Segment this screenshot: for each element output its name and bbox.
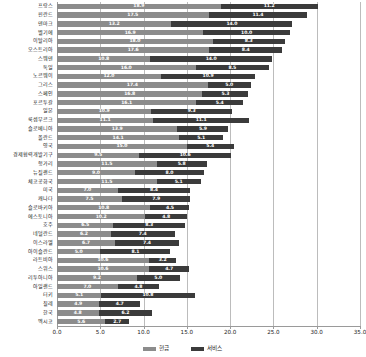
- bar-value-cash: 17.6: [128, 48, 139, 53]
- category-label: 체코공화국: [28, 179, 53, 184]
- legend-item[interactable]: 서비스: [191, 346, 222, 352]
- category-label: 프랑스: [38, 4, 53, 9]
- category-label: 룩셈부르크: [28, 118, 53, 123]
- bar-row: 11.55.1: [57, 179, 360, 184]
- category-label: 뉴질랜드: [33, 170, 53, 175]
- bar-row: 6.77.4: [57, 240, 360, 245]
- bar-value-cash: 10.8: [98, 205, 109, 210]
- bar-value-cash: 4.9: [74, 302, 82, 307]
- bar-value-cash: 4.8: [74, 311, 82, 316]
- category-label: 아일랜드: [33, 284, 53, 289]
- bar-value-cash: 11.1: [100, 118, 111, 123]
- bar-value-service: 2.7: [113, 319, 121, 324]
- legend-label: 현금: [159, 346, 169, 352]
- bar-value-cash: 14.1: [113, 135, 124, 140]
- bar-value-cash: 7.5: [86, 197, 94, 202]
- bar-value-service: 8.5: [228, 65, 236, 70]
- bar-value-cash: 9.5: [94, 153, 102, 158]
- bar-value-cash: 18.9: [133, 4, 144, 9]
- bar-value-cash: 11.5: [101, 162, 112, 167]
- category-label: 노르웨이: [33, 74, 53, 79]
- bar-value-service: 5.0: [154, 276, 162, 281]
- bar-value-cash: 10.9: [99, 109, 110, 114]
- bar-row: 6.27.4: [57, 231, 360, 236]
- x-axis-tick-label: 20.0: [224, 330, 236, 336]
- x-axis-tick-label: 25.0: [267, 330, 279, 336]
- bar-value-cash: 13.9: [112, 127, 123, 132]
- x-axis-tick-label: 10.0: [137, 330, 149, 336]
- bar-row: 16.85.3: [57, 91, 360, 96]
- category-label: 오스트리아: [28, 48, 53, 53]
- category-label: 스페인: [38, 91, 53, 96]
- category-label: 벨기에: [38, 30, 53, 35]
- bar-value-service: 10.6: [180, 153, 191, 158]
- bar-row: 10.99.3: [57, 109, 360, 114]
- category-label: 독일: [43, 65, 53, 70]
- category-label: 경제협력개발기구: [13, 153, 53, 158]
- bar-value-service: 9.3: [188, 109, 196, 114]
- bar-row: 10.24.8: [57, 214, 360, 219]
- bar-row: 15.05.4: [57, 144, 360, 149]
- bar-value-service: 8.3: [145, 223, 153, 228]
- gridline: [360, 2, 361, 326]
- category-label: 에스토니아: [28, 214, 53, 219]
- bar-row: 18.08.3: [57, 39, 360, 44]
- bar-value-service: 8.3: [245, 39, 253, 44]
- category-label: 미국: [43, 188, 53, 193]
- bar-value-service: 10.9: [203, 74, 214, 79]
- bar-value-service: 8.4: [242, 48, 250, 53]
- bar-rows: 18.911.217.511.413.214.016.910.018.08.31…: [57, 2, 360, 326]
- category-label: 호주: [43, 223, 53, 228]
- category-label: 이탈리아: [33, 39, 53, 44]
- category-label: 칠레: [43, 302, 53, 307]
- category-label: 멕시코: [38, 319, 53, 324]
- bar-value-service: 8.0: [166, 170, 174, 175]
- bar-value-cash: 6.2: [80, 232, 88, 237]
- bar-value-cash: 10.6: [97, 267, 108, 272]
- category-label: 그리스: [38, 83, 53, 88]
- bar-value-cash: 5.6: [77, 319, 85, 324]
- category-label: 터키: [43, 293, 53, 298]
- bar-value-service: 14.0: [206, 57, 217, 62]
- bar-row: 16.910.0: [57, 30, 360, 35]
- bar-row: 4.94.7: [57, 301, 360, 306]
- legend-swatch-icon: [143, 347, 156, 351]
- bar-row: 6.58.3: [57, 223, 360, 228]
- bar-row: 13.214.0: [57, 21, 360, 26]
- bar-row: 7.57.9: [57, 196, 360, 201]
- bar-row: 10.63.2: [57, 258, 360, 263]
- category-label: 영국: [43, 144, 53, 149]
- bar-value-service: 10.8: [142, 293, 153, 298]
- legend-label: 서비스: [207, 346, 222, 352]
- bar-value-cash: 13.2: [109, 22, 120, 27]
- category-label: 라트비아: [33, 258, 53, 263]
- category-label: 리투아니아: [28, 275, 53, 280]
- x-axis: 0.05.010.015.020.025.030.035.0: [57, 326, 360, 340]
- bar-value-service: 5.1: [197, 135, 205, 140]
- category-label: 덴마크: [38, 21, 53, 26]
- category-label: 한국: [43, 310, 53, 315]
- legend-swatch-icon: [191, 347, 204, 351]
- bar-row: 5.08.1: [57, 249, 360, 254]
- bar-value-service: 3.2: [159, 258, 167, 263]
- bar-row: 9.08.0: [57, 170, 360, 175]
- category-label: 네덜란드: [33, 232, 53, 237]
- bar-value-service: 7.4: [139, 232, 147, 237]
- bar-value-service: 4.7: [116, 302, 124, 307]
- category-axis-labels: 프랑스핀란드덴마크벨기에이탈리아오스트리아스웨덴독일노르웨이그리스스페인포르투갈…: [0, 2, 55, 326]
- bar-value-service: 4.7: [165, 267, 173, 272]
- x-axis-tick-label: 15.0: [181, 330, 193, 336]
- legend-item[interactable]: 현금: [143, 346, 169, 352]
- bar-row: 4.86.2: [57, 310, 360, 315]
- bar-row: 10.84.5: [57, 205, 360, 210]
- bar-value-cash: 17.4: [127, 83, 138, 88]
- bar-value-service: 7.9: [152, 197, 160, 202]
- bar-value-service: 14.0: [226, 22, 237, 27]
- category-label: 캐나다: [38, 196, 53, 201]
- bar-row: 10.814.0: [57, 56, 360, 61]
- bar-value-cash: 16.0: [121, 65, 132, 70]
- bar-value-service: 5.4: [216, 100, 224, 105]
- bar-value-cash: 11.5: [101, 179, 112, 184]
- bar-row: 16.08.5: [57, 65, 360, 70]
